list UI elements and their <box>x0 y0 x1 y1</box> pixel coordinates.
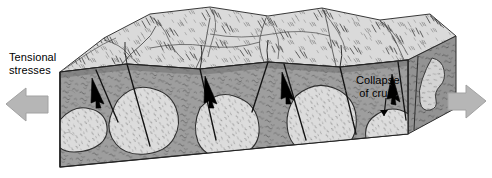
collapse-of-crust-line-2: of crust <box>356 87 400 100</box>
tensional-stresses-line-1: Tensional <box>9 51 56 64</box>
left-tension-arrow <box>6 88 48 121</box>
collapse-of-crust-label: Collapse of crust <box>356 74 400 99</box>
diagram-canvas: Tensional stresses Collapse of crust <box>0 0 492 178</box>
tensional-stresses-label: Tensional stresses <box>9 51 56 76</box>
tensional-stresses-line-2: stresses <box>9 64 56 77</box>
collapse-of-crust-line-1: Collapse <box>356 74 400 87</box>
block-diagram-illustration <box>0 0 492 178</box>
